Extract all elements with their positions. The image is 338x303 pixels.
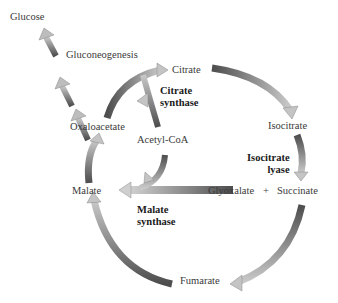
label-acetyl-coa: Acetyl-CoA <box>137 135 188 146</box>
label-plus: + <box>263 186 269 197</box>
label-glucose: Glucose <box>10 12 44 23</box>
label-gluconeogenesis: Gluconeogenesis <box>66 50 138 61</box>
label-succinate: Succinate <box>277 186 318 197</box>
label-isocitrate: Isocitrate <box>268 121 307 132</box>
label-malate-synthase: Malate synthase <box>137 204 176 228</box>
label-oxaloacetate: Oxaloacetate <box>70 122 125 133</box>
label-malate: Malate <box>72 186 101 197</box>
label-isocitrate-lyase: Isocitrate lyase <box>247 152 290 176</box>
glyoxylate-cycle-diagram: Glucose Gluconeogenesis Citrate Citrate … <box>0 0 338 303</box>
label-glyoxalate: Glyoxalate <box>208 186 254 197</box>
malate-oxaloacetate-arrow <box>88 133 104 183</box>
succinate-fumarate-arrow <box>230 205 302 291</box>
label-fumarate: Fumarate <box>180 276 220 287</box>
gluconeogenesis-arrow-2 <box>55 77 72 106</box>
gluconeogenesis-arrow-3 <box>39 28 56 56</box>
label-citrate: Citrate <box>172 65 201 76</box>
isocitrate-lyase-arrow <box>294 135 308 181</box>
label-citrate-synthase: Citrate synthase <box>160 85 199 109</box>
aconitase-arrow <box>212 68 298 119</box>
citrate-synthase-arrow <box>107 63 168 127</box>
